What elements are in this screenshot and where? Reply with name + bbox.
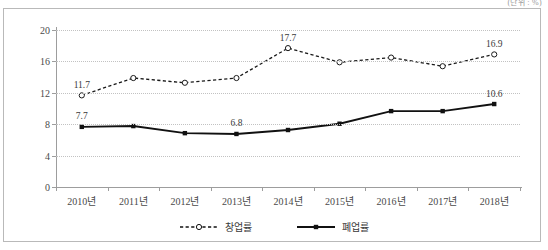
data-point: [440, 108, 444, 112]
y-tick-label: 12: [40, 87, 50, 98]
gridline: [56, 61, 520, 62]
legend-item-0[interactable]: 창업률: [179, 219, 252, 234]
y-tick-mark: [52, 61, 56, 62]
data-point-label: 10.6: [486, 89, 503, 99]
data-point: [492, 101, 496, 105]
x-tick-label: 2011년: [119, 193, 148, 208]
y-tick-mark: [52, 124, 56, 125]
legend-label: 창업률: [225, 219, 252, 234]
x-tick-label: 2010년: [67, 193, 96, 208]
x-tick-label: 2017년: [428, 193, 457, 208]
y-tick-mark: [52, 93, 56, 94]
data-point: [131, 75, 136, 80]
unit-note: (단위 : %): [507, 0, 542, 7]
data-point-label: 7.7: [76, 111, 88, 121]
y-tick-label: 4: [45, 150, 50, 161]
data-point: [234, 131, 238, 135]
gridline: [56, 124, 520, 125]
x-tick-mark: [56, 187, 57, 191]
data-point: [440, 63, 445, 68]
gridline: [56, 30, 520, 31]
x-tick-label: 2013년: [222, 193, 251, 208]
chart-container: (단위 : %) 04812162011.717.716.97.76.810.6…: [0, 0, 548, 250]
y-tick-label: 8: [45, 119, 50, 130]
x-tick-label: 2015년: [325, 193, 354, 208]
data-point: [182, 80, 187, 85]
legend-label: 폐업률: [342, 219, 369, 234]
legend-swatch-open-circle: [179, 222, 219, 232]
gridline: [56, 156, 520, 157]
data-point: [389, 54, 394, 59]
y-tick-label: 0: [45, 182, 50, 193]
data-point: [285, 45, 290, 50]
y-tick-mark: [52, 30, 56, 31]
x-tick-mark: [520, 187, 521, 191]
x-tick-mark: [262, 187, 263, 191]
plot-area: 04812162011.717.716.97.76.810.6: [56, 30, 520, 188]
data-point-label: 11.7: [74, 80, 90, 90]
data-point: [286, 127, 290, 131]
x-tick-mark: [468, 187, 469, 191]
x-tick-mark: [159, 187, 160, 191]
x-tick-label: 2016년: [377, 193, 406, 208]
x-tick-mark: [365, 187, 366, 191]
data-point-label: 17.7: [280, 33, 297, 43]
x-tick-mark: [417, 187, 418, 191]
legend-item-1[interactable]: 폐업률: [296, 219, 369, 234]
y-tick-mark: [52, 156, 56, 157]
x-tick-mark: [108, 187, 109, 191]
x-tick-mark: [211, 187, 212, 191]
chart-legend: 창업률폐업률: [0, 219, 548, 234]
y-tick-label: 16: [40, 56, 50, 67]
x-tick-mark: [314, 187, 315, 191]
data-point: [234, 75, 239, 80]
data-point: [389, 108, 393, 112]
legend-swatch-filled-square: [296, 222, 336, 232]
x-tick-label: 2012년: [170, 193, 199, 208]
gridline: [56, 93, 520, 94]
data-point-label: 6.8: [231, 118, 243, 128]
series-line-0: [82, 48, 494, 95]
data-point-label: 16.9: [486, 39, 503, 49]
data-point: [492, 51, 497, 56]
series-layer: [56, 30, 520, 188]
x-axis-line: [56, 187, 522, 188]
data-point: [183, 130, 187, 134]
x-tick-label: 2014년: [274, 193, 303, 208]
x-tick-label: 2018년: [480, 193, 509, 208]
y-tick-label: 20: [40, 24, 50, 35]
